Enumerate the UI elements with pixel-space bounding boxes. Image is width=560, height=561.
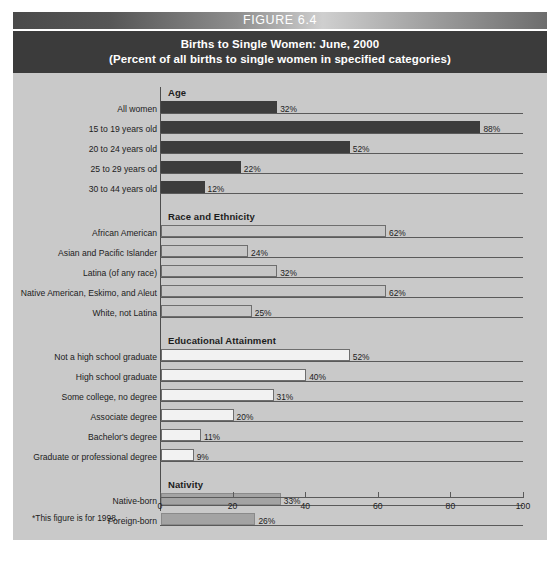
bar-value-label: 9% — [197, 452, 209, 462]
row-baseline — [160, 461, 523, 462]
row-baseline — [160, 297, 523, 298]
bar — [161, 369, 306, 381]
x-axis-line — [160, 497, 524, 498]
row-baseline — [160, 153, 523, 154]
bar — [161, 265, 277, 277]
bar-value-label: 31% — [277, 392, 294, 402]
chart-plot-area: AgeAll women32%15 to 19 years old88%20 t… — [13, 73, 547, 540]
x-axis-tick-label: 80 — [446, 501, 456, 511]
row-baseline — [160, 257, 523, 258]
section-header-race-and-ethnicity: Race and Ethnicity — [168, 211, 255, 222]
row-baseline — [160, 421, 523, 422]
bar-value-label: 11% — [204, 432, 220, 442]
x-axis-tick-label: 0 — [158, 501, 163, 511]
bar-category-label: Native American, Eskimo, and Aleut — [0, 288, 157, 298]
bar-value-label: 22% — [244, 164, 261, 174]
row-baseline — [160, 317, 523, 318]
x-axis-tick — [523, 492, 524, 497]
bar-value-label: 20% — [237, 412, 254, 422]
bar-category-label: Associate degree — [0, 412, 157, 422]
x-axis-tick-label: 40 — [300, 501, 310, 511]
bar-value-label: 12% — [208, 184, 225, 194]
x-axis-tick-label: 20 — [228, 501, 238, 511]
bar-value-label: 88% — [483, 124, 500, 134]
bar-category-label: White, not Latina — [0, 308, 157, 318]
row-baseline — [160, 525, 523, 526]
bar — [161, 285, 386, 297]
bar — [161, 245, 248, 257]
bar — [161, 409, 234, 421]
bar-value-label: 32% — [280, 268, 297, 278]
row-baseline — [160, 381, 523, 382]
bar-category-label: 20 to 24 years old — [0, 144, 157, 154]
bar — [161, 349, 350, 361]
x-axis-tick — [450, 492, 451, 497]
bar-category-label: Bachelor's degree — [0, 432, 157, 442]
figure-footnote: *This figure is for 1998. — [32, 513, 118, 523]
bar-value-label: 26% — [258, 516, 275, 526]
bar-value-label: 62% — [389, 288, 406, 298]
bar-category-label: High school graduate — [0, 372, 157, 382]
row-baseline — [160, 113, 523, 114]
bar — [161, 305, 252, 317]
row-baseline — [160, 237, 523, 238]
row-baseline — [160, 401, 523, 402]
row-baseline — [160, 173, 523, 174]
x-axis-tick-label: 100 — [516, 501, 530, 511]
bar-category-label: African American — [0, 228, 157, 238]
figure-container: FIGURE 6.4 Births to Single Women: June,… — [0, 0, 560, 561]
x-axis-tick-label: 60 — [373, 501, 383, 511]
bar-category-label: 25 to 29 years od — [0, 164, 157, 174]
bar — [161, 121, 480, 133]
bar-category-label: Not a high school graduate — [0, 352, 157, 362]
figure-title-line-2: (Percent of all births to single women i… — [109, 52, 451, 67]
bar-category-label: 30 to 44 years old — [0, 184, 157, 194]
bar — [161, 181, 205, 193]
bar — [161, 225, 386, 237]
x-axis-tick — [160, 492, 161, 497]
section-header-nativity: Nativity — [168, 479, 203, 490]
bar-category-label: 15 to 19 years old — [0, 124, 157, 134]
section-header-educational-attainment: Educational Attainment — [168, 335, 276, 346]
bar-category-label: Graduate or professional degree — [0, 452, 157, 462]
bar — [161, 493, 281, 505]
bar-value-label: 40% — [309, 372, 326, 382]
section-header-age: Age — [168, 87, 186, 98]
bar-value-label: 52% — [353, 352, 370, 362]
figure-title-block: Births to Single Women: June, 2000 (Perc… — [13, 31, 547, 73]
bar-category-label: Some college, no degree — [0, 392, 157, 402]
bar — [161, 389, 274, 401]
bar-category-label: All women — [0, 104, 157, 114]
bar — [161, 161, 241, 173]
bar-value-label: 25% — [255, 308, 272, 318]
row-baseline — [160, 505, 523, 506]
bar — [161, 101, 277, 113]
bar-value-label: 52% — [353, 144, 370, 154]
figure-title-line-1: Births to Single Women: June, 2000 — [181, 37, 380, 52]
bar-category-label: Asian and Pacific Islander — [0, 248, 157, 258]
row-baseline — [160, 277, 523, 278]
figure-banner: FIGURE 6.4 — [13, 12, 547, 29]
bar-category-label: Native-born — [0, 496, 157, 506]
bar — [161, 449, 194, 461]
row-baseline — [160, 133, 523, 134]
figure-number-label: FIGURE 6.4 — [13, 12, 547, 29]
x-axis-tick — [233, 492, 234, 497]
bar — [161, 141, 350, 153]
bar-category-label: Latina (of any race) — [0, 268, 157, 278]
bar-value-label: 24% — [251, 248, 268, 258]
x-axis-tick — [378, 492, 379, 497]
x-axis-tick — [305, 492, 306, 497]
bar-value-label: 62% — [389, 228, 406, 238]
row-baseline — [160, 361, 523, 362]
bar-value-label: 32% — [280, 104, 297, 114]
bar — [161, 429, 201, 441]
bar — [161, 513, 255, 525]
